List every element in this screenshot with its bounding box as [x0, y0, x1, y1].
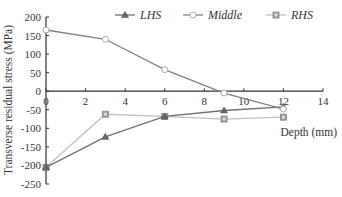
y-axis-title: Transverse residual stress (MPa)	[2, 25, 15, 175]
circle-marker	[280, 106, 286, 112]
legend-item-middle: Middle	[183, 8, 243, 22]
legend-label: Middle	[207, 8, 243, 22]
line-chart: 200150100500-50-100-150-200-250 02468101…	[0, 0, 342, 197]
y-tick-label: 0	[36, 85, 42, 97]
x-tick-label: 2	[83, 95, 89, 107]
circle-marker	[162, 67, 168, 73]
x-axis: 02468101214	[43, 88, 329, 107]
y-tick-label: -100	[21, 122, 42, 134]
y-tick-label: -50	[26, 104, 41, 116]
circle-marker	[102, 36, 108, 42]
y-tick-label: -150	[21, 141, 42, 153]
legend: LHSMiddleRHS	[115, 8, 313, 22]
y-tick-label: 50	[30, 67, 42, 79]
y-tick-label: -200	[21, 159, 42, 171]
circle-marker	[43, 27, 49, 33]
legend-label: RHS	[290, 8, 313, 22]
y-tick-label: 150	[25, 30, 42, 42]
legend-item-lhs: LHS	[115, 8, 161, 22]
y-tick-label: 200	[25, 11, 42, 23]
series-rhs	[43, 111, 286, 170]
series-line	[46, 114, 283, 167]
circle-marker	[221, 90, 227, 96]
x-axis-title: Depth (mm)	[280, 126, 337, 139]
square-marker-inner	[275, 14, 278, 17]
y-tick-label: 100	[25, 48, 42, 60]
legend-label: LHS	[139, 8, 161, 22]
circle-marker	[190, 12, 196, 18]
x-tick-label: 0	[43, 95, 49, 107]
y-tick-label: -250	[21, 178, 42, 190]
square-marker-inner	[104, 113, 107, 116]
series-lhs	[43, 103, 287, 169]
x-tick-label: 4	[122, 95, 128, 107]
x-tick-label: 8	[202, 95, 208, 107]
x-tick-label: 6	[162, 95, 168, 107]
square-marker-inner	[223, 118, 226, 121]
x-tick-label: 14	[318, 95, 330, 107]
legend-item-rhs: RHS	[266, 8, 313, 22]
square-marker-inner	[282, 116, 285, 119]
